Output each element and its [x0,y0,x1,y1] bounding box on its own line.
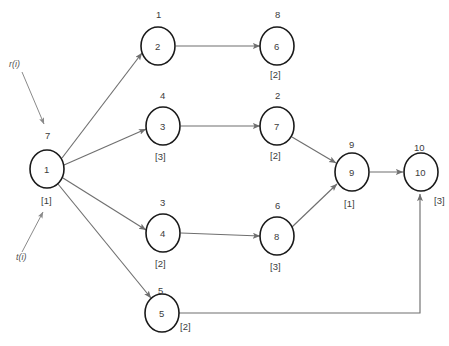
graph-canvas [0,0,449,346]
node-9-demand-label: [1] [344,199,355,209]
edge-7-to-9 [292,137,336,163]
node-6-above-label: 8 [275,10,280,20]
node-5-above-label: 5 [158,286,163,296]
t-annotation-arrow [22,212,43,252]
node-10-demand-label: [3] [434,196,445,206]
edge-1-to-3 [64,129,146,165]
node-6-id: 6 [274,42,279,52]
node-8-above-label: 6 [275,201,280,211]
edge-1-to-2 [62,53,142,158]
node-8-id: 8 [274,232,279,242]
node-4-above-label: 3 [160,198,165,208]
node-3-id: 3 [160,122,165,132]
node-3-above-label: 4 [160,91,165,101]
node-1-id: 1 [44,165,49,175]
node-8-demand-label: [3] [270,262,281,272]
edge-4-to-8 [181,233,260,236]
node-7-id: 7 [274,122,279,132]
node-4-demand-label: [2] [155,259,166,269]
edge-8-to-9 [292,184,337,227]
node-10-above-label: 10 [414,143,425,153]
node-group [30,27,438,332]
t-annotation-label: t(i) [16,253,27,262]
network-diagram: 1 2 3 4 5 6 7 8 9 10 7 1 4 3 5 8 2 6 9 1… [0,0,449,346]
r-annotation-label: r(i) [9,60,20,69]
node-1-demand-label: [1] [41,196,52,206]
edge-1-to-5 [58,184,151,298]
edge-5-to-10 [179,194,420,313]
node-1-above-label: 7 [45,131,50,141]
node-2-above-label: 1 [156,10,161,20]
node-2-id: 2 [155,42,160,52]
node-3-demand-label: [3] [155,152,166,162]
node-4-id: 4 [160,229,165,239]
node-6-demand-label: [2] [270,70,281,80]
node-5-id: 5 [159,309,164,319]
node-5-demand-label: [2] [180,322,191,332]
node-7-above-label: 2 [275,91,280,101]
node-9-id: 9 [349,168,354,178]
edge-1-to-4 [63,178,146,230]
node-9-above-label: 9 [349,140,354,150]
node-7-demand-label: [2] [270,151,281,161]
node-10-id: 10 [415,168,426,178]
r-annotation-arrow [22,72,44,124]
